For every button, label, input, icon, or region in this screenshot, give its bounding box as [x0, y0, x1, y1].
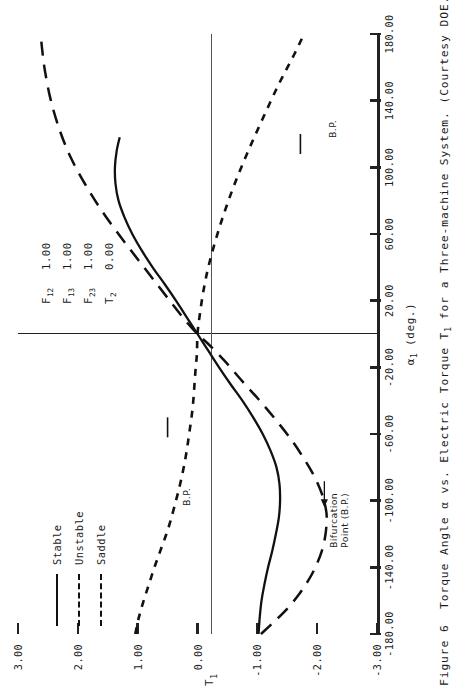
parameter-symbol: F — [82, 297, 94, 304]
y-tick-label: 2.00 — [72, 644, 83, 670]
y-tick-label: -2.00 — [312, 644, 323, 677]
caption-alpha-symbol: α — [438, 501, 451, 509]
parameter-name: T2 — [101, 270, 122, 304]
legend-swatch-solid — [56, 574, 58, 626]
parameter-row: F121.00 — [38, 242, 59, 304]
y-axis-title-sub: 1 — [210, 674, 219, 679]
x-axis-title-units: (deg.) — [404, 303, 417, 354]
parameter-row: F231.00 — [80, 242, 101, 304]
figure-container: -180.00-140.00-100.00-60.00-20.0020.0060… — [0, 0, 474, 694]
x-axis-title-sub: 1 — [410, 353, 419, 358]
caption-text-2: vs. Electric Torque T — [438, 332, 451, 501]
caption-number: Figure 6 — [438, 624, 451, 686]
parameter-symbol: F — [40, 297, 52, 304]
legend-swatch-dashed — [100, 574, 102, 626]
parameter-row: T20.00 — [101, 242, 122, 304]
curve-stable — [115, 137, 280, 634]
legend-item-unstable: Unstable — [68, 511, 90, 626]
parameter-list: F121.00F131.00F231.00T20.00 — [38, 242, 122, 304]
curve-unstable — [135, 34, 304, 634]
parameter-name: F12 — [38, 270, 59, 304]
legend-item-stable: Stable — [46, 511, 68, 626]
y-tick-label: -3.00 — [372, 644, 383, 677]
legend-item-saddle: Saddle — [90, 511, 112, 626]
annotation-bifurcation-line2: Point (B.P.) — [339, 493, 350, 548]
parameter-name: F23 — [80, 270, 101, 304]
caption-text-1: Torque Angle — [438, 509, 451, 609]
y-tick-label: 1.00 — [132, 644, 143, 670]
parameter-subscript: 12 — [46, 288, 55, 297]
x-axis-title-main: α — [404, 358, 417, 365]
annotation-bp-lower: B.P. — [327, 120, 338, 138]
legend-swatch-dotted — [78, 574, 80, 626]
x-axis-title: α1 (deg.) — [404, 303, 419, 366]
plot-area: -180.00-140.00-100.00-60.00-20.0020.0060… — [18, 34, 404, 634]
y-tick-label: -1.00 — [252, 644, 263, 677]
caption-text-3: for a Three-machine System. (Courtesy DO… — [438, 0, 451, 327]
annotation-bifurcation-point: Bifurcation Point (B.P.) — [328, 493, 350, 548]
parameter-subscript: 23 — [88, 288, 97, 297]
parameter-value: 1.00 — [80, 242, 97, 270]
caption-subscript: 1 — [444, 327, 453, 332]
annotation-bp-upper: B.P. — [181, 488, 192, 506]
parameter-name: F13 — [59, 270, 80, 304]
figure-caption: Figure 6 Torque Angle α vs. Electric Tor… — [438, 8, 453, 686]
parameter-symbol: T — [103, 297, 115, 304]
parameter-subscript: 2 — [109, 293, 118, 298]
parameter-value: 0.00 — [101, 242, 118, 270]
legend-label: Unstable — [73, 511, 85, 565]
parameter-row: F131.00 — [59, 242, 80, 304]
parameter-value: 1.00 — [38, 242, 55, 270]
y-tick-label: 3.00 — [13, 644, 24, 670]
parameter-value: 1.00 — [59, 242, 76, 270]
parameter-subscript: 13 — [67, 288, 76, 297]
y-tick-label: 0.00 — [192, 644, 203, 670]
legend-label: Saddle — [95, 524, 107, 565]
parameter-symbol: F — [61, 297, 73, 304]
y-axis-title-main: T — [203, 679, 216, 686]
legend: StableUnstableSaddle — [46, 511, 112, 626]
y-axis-title: T1 — [203, 674, 218, 686]
legend-label: Stable — [51, 524, 63, 565]
annotation-bifurcation-line1: Bifurcation — [328, 493, 339, 548]
